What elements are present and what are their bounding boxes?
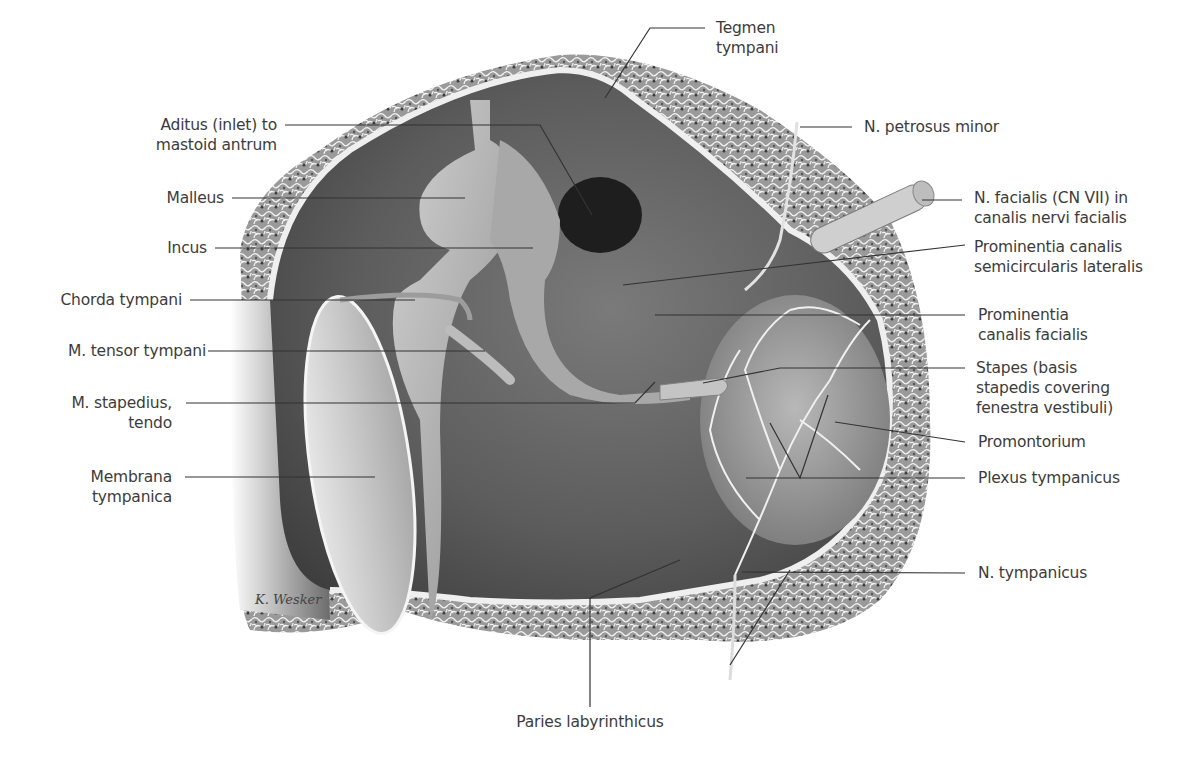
label-line: Prominentia canalis [974,237,1143,257]
label-m-stapedius: M. stapedius, tendo [71,393,172,433]
label-line: N. petrosus minor [864,117,999,137]
label-line: fenestra vestibuli) [976,398,1113,418]
label-stapes: Stapes (basis stapedis covering fenestra… [976,358,1113,418]
label-paries-labyrinthicus: Paries labyrinthicus [500,712,680,732]
label-line: Aditus (inlet) to [156,115,277,135]
label-line: N. facialis (CN VII) in [974,188,1128,208]
label-n-tympanicus: N. tympanicus [978,563,1087,583]
label-n-facialis: N. facialis (CN VII) in canalis nervi fa… [974,188,1128,228]
label-line: Stapes (basis [976,358,1113,378]
label-promontorium: Promontorium [978,432,1086,452]
label-prominentia-canalis-semicircularis: Prominentia canalis semicircularis later… [974,237,1143,277]
label-line: tympanica [91,487,172,507]
label-m-tensor-tympani: M. tensor tympani [68,341,206,361]
label-line: tympani [716,38,778,58]
label-line: Malleus [166,188,224,208]
label-line: N. tympanicus [978,563,1087,583]
label-incus: Incus [167,238,207,258]
svg-text:K. Wesker: K. Wesker [254,592,322,607]
label-line: mastoid antrum [156,135,277,155]
label-chorda-tympani: Chorda tympani [60,290,182,310]
label-line: Chorda tympani [60,290,182,310]
label-line: semicircularis lateralis [974,257,1143,277]
promontorium [700,295,890,545]
label-line: Paries labyrinthicus [500,712,680,732]
label-prominentia-canalis-facialis: Prominentia canalis facialis [978,305,1088,345]
label-line: Plexus tympanicus [978,468,1120,488]
label-line: stapedis covering [976,378,1113,398]
label-line: Tegmen [716,18,778,38]
label-line: canalis facialis [978,325,1088,345]
label-line: Incus [167,238,207,258]
label-aditus: Aditus (inlet) to mastoid antrum [156,115,277,155]
label-tegmen-tympani: Tegmen tympani [716,18,778,58]
label-malleus: Malleus [166,188,224,208]
label-membrana-tympanica: Membrana tympanica [91,467,172,507]
label-line: M. stapedius, [71,393,172,413]
label-line: tendo [71,413,172,433]
label-n-petrosus-minor: N. petrosus minor [864,117,999,137]
label-line: Membrana [91,467,172,487]
label-line: Prominentia [978,305,1088,325]
label-plexus-tympanicus: Plexus tympanicus [978,468,1120,488]
label-line: Promontorium [978,432,1086,452]
label-line: M. tensor tympani [68,341,206,361]
label-line: canalis nervi facialis [974,208,1128,228]
